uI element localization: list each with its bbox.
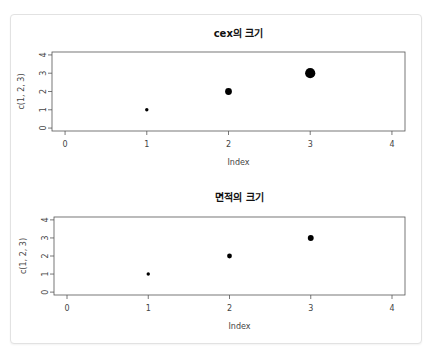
y-axis-label: c(1, 2, 3) bbox=[19, 238, 28, 274]
plot-panel-1: cex의 크기0123401234Indexc(1, 2, 3) bbox=[17, 27, 405, 167]
x-tick-label: 4 bbox=[389, 304, 394, 313]
y-tick-label: 1 bbox=[41, 272, 50, 277]
y-axis-label: c(1, 2, 3) bbox=[17, 73, 26, 109]
y-tick-label: 1 bbox=[39, 107, 48, 112]
figure: cex의 크기0123401234Indexc(1, 2, 3)면적의 크기01… bbox=[0, 0, 431, 352]
x-tick-label: 3 bbox=[308, 304, 313, 313]
data-point bbox=[225, 88, 232, 95]
y-tick-label: 3 bbox=[39, 71, 48, 76]
data-point bbox=[145, 108, 148, 111]
y-tick-label: 2 bbox=[41, 253, 50, 258]
y-tick-label: 2 bbox=[39, 89, 48, 94]
data-point bbox=[308, 235, 314, 241]
plot-panel-2: 면적의 크기0123401234Indexc(1, 2, 3) bbox=[19, 191, 405, 331]
data-point bbox=[227, 254, 232, 259]
x-tick-label: 4 bbox=[389, 140, 394, 149]
y-tick-label: 0 bbox=[39, 126, 48, 131]
y-tick-label: 3 bbox=[41, 235, 50, 240]
plot-title: 면적의 크기 bbox=[215, 191, 263, 203]
x-axis-label: Index bbox=[227, 158, 249, 167]
x-tick-label: 2 bbox=[227, 304, 232, 313]
x-tick-label: 1 bbox=[144, 140, 149, 149]
data-point bbox=[147, 272, 150, 275]
plot-title: cex의 크기 bbox=[214, 27, 264, 39]
x-tick-label: 0 bbox=[63, 140, 68, 149]
x-tick-label: 2 bbox=[226, 140, 231, 149]
x-axis-label: Index bbox=[228, 322, 250, 331]
data-point bbox=[305, 68, 315, 78]
x-tick-label: 0 bbox=[64, 304, 69, 313]
x-tick-label: 3 bbox=[308, 140, 313, 149]
y-tick-label: 4 bbox=[39, 52, 48, 57]
y-tick-label: 0 bbox=[41, 290, 50, 295]
x-tick-label: 1 bbox=[146, 304, 151, 313]
y-tick-label: 4 bbox=[41, 217, 50, 222]
